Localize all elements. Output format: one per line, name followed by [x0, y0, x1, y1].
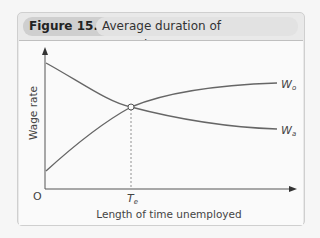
- te-label: Te: [127, 192, 138, 206]
- origin-label: O: [33, 190, 42, 203]
- wa-label: Wa: [281, 124, 296, 138]
- series-wa-line: [46, 63, 277, 129]
- chart-svg: Wo Wa Te O Length of time unemployed Wag…: [19, 41, 303, 225]
- wo-label: Wo: [281, 78, 296, 92]
- figure-frame: Figure 15.7 Average duration of unemploy…: [17, 12, 305, 226]
- intersection-marker: [128, 104, 134, 110]
- figure-title: Average duration of unemployment: [96, 17, 298, 36]
- x-axis-label: Length of time unemployed: [96, 208, 241, 220]
- chart-area: Wo Wa Te O Length of time unemployed Wag…: [19, 40, 303, 225]
- y-axis-label: Wage rate: [27, 86, 39, 140]
- x-axis-arrow-icon: [289, 186, 297, 192]
- figure-header: Figure 15.7 Average duration of unemploy…: [18, 13, 304, 40]
- y-axis-arrow-icon: [42, 47, 48, 55]
